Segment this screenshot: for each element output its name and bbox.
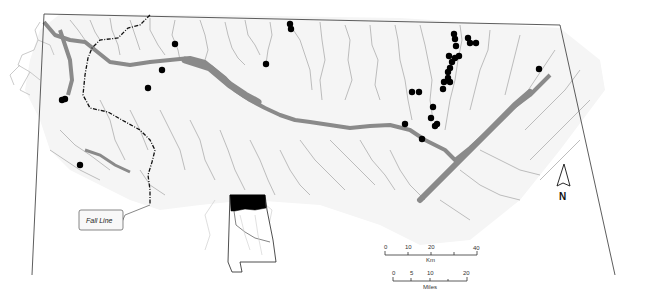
site-marker	[440, 86, 446, 92]
site-marker	[416, 89, 422, 95]
site-marker	[445, 69, 451, 75]
site-marker	[446, 53, 452, 59]
scale-bar-km: 0 10 20 40 Km	[384, 244, 480, 263]
inset-study-area	[230, 195, 266, 211]
site-marker	[419, 136, 425, 142]
north-arrow: N	[557, 164, 570, 202]
site-marker	[432, 123, 438, 129]
site-marker	[159, 67, 165, 73]
fall-line-callout: Fall Line	[79, 205, 150, 230]
km-tick-10: 10	[405, 244, 412, 250]
site-marker	[430, 104, 436, 110]
site-marker	[77, 162, 83, 168]
site-marker	[402, 121, 408, 127]
km-tick-0: 0	[384, 244, 388, 250]
site-marker	[288, 26, 294, 32]
site-marker	[409, 89, 415, 95]
site-marker	[447, 79, 453, 85]
north-label: N	[559, 191, 566, 202]
site-marker	[453, 43, 459, 49]
site-marker	[536, 66, 542, 72]
km-unit-label: Km	[426, 257, 435, 263]
site-marker	[452, 36, 458, 42]
mi-tick-0: 0	[392, 270, 396, 276]
north-arrow-icon	[557, 164, 570, 186]
site-marker	[145, 85, 151, 91]
miles-unit-label: Miles	[423, 284, 437, 290]
km-tick-20: 20	[428, 244, 435, 250]
site-marker	[473, 40, 479, 46]
mi-tick-20: 20	[463, 270, 470, 276]
site-marker	[172, 41, 178, 47]
inset-map-alabama	[205, 195, 276, 272]
mi-tick-5: 5	[410, 270, 414, 276]
mi-tick-10: 10	[427, 270, 434, 276]
site-marker	[62, 96, 68, 102]
site-marker	[263, 61, 269, 67]
km-tick-40: 40	[473, 245, 480, 251]
site-marker	[456, 53, 462, 59]
site-marker	[467, 40, 473, 46]
site-marker	[441, 79, 447, 85]
map-canvas: Fall Line N 0 10 20 40 Km 0 5	[0, 0, 648, 302]
fall-line-label: Fall Line	[86, 217, 113, 224]
site-marker	[449, 59, 455, 65]
site-marker	[428, 115, 434, 121]
scale-bar-miles: 0 5 10 20 Miles	[392, 270, 470, 290]
